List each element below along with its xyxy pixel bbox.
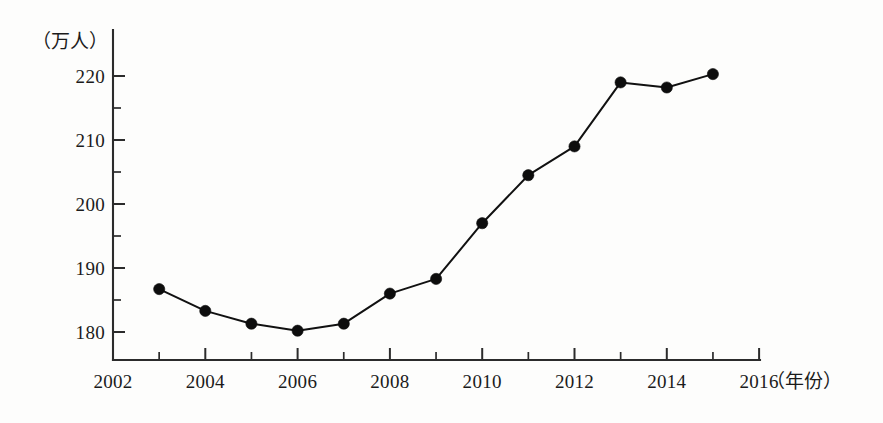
data-point (477, 218, 488, 229)
data-point (154, 284, 165, 295)
x-axis-tick-labels: 20022004200620082010201220142016 (93, 371, 778, 392)
y-axis-unit-label: （万人） (32, 31, 108, 52)
y-tick-label: 200 (76, 194, 105, 215)
x-tick-label: 2014 (647, 371, 686, 392)
data-point (200, 305, 211, 316)
data-point (384, 288, 395, 299)
data-point (246, 318, 257, 329)
x-tick-label: 2004 (186, 371, 225, 392)
data-point (338, 318, 349, 329)
x-tick-label: 2002 (93, 371, 132, 392)
data-point (523, 170, 534, 181)
data-point (431, 273, 442, 284)
y-tick-label: 180 (76, 322, 105, 343)
y-axis-tick-labels: 180190200210220 (76, 66, 105, 343)
x-axis-unit-label: （年份） (766, 371, 842, 392)
data-line-series (159, 74, 713, 331)
chart-container: 180190200210220 200220042006200820102012… (0, 0, 883, 423)
y-axis-ticks (113, 76, 125, 332)
y-tick-label: 220 (76, 66, 105, 87)
y-tick-label: 210 (76, 130, 105, 151)
data-point-markers (154, 69, 719, 337)
data-point (569, 141, 580, 152)
data-point (661, 82, 672, 93)
x-tick-label: 2008 (370, 371, 409, 392)
line-chart: 180190200210220 200220042006200820102012… (0, 0, 883, 423)
x-tick-label: 2006 (278, 371, 317, 392)
x-tick-label: 2012 (555, 371, 594, 392)
y-tick-label: 190 (76, 258, 105, 279)
data-point (707, 69, 718, 80)
data-point (615, 77, 626, 88)
x-axis-ticks (113, 348, 759, 360)
x-tick-label: 2010 (463, 371, 502, 392)
data-point (292, 325, 303, 336)
